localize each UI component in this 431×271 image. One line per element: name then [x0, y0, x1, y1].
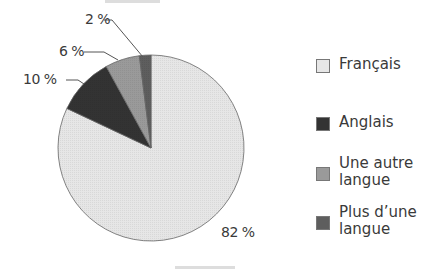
legend-item-une-autre-langue: Une autre langue	[316, 155, 429, 189]
pie-slices	[58, 55, 244, 241]
legend-item-francais: Français	[316, 56, 429, 73]
data-label-une-autre-langue: 6 %	[59, 43, 84, 59]
data-label-plus-dune-langue: 2 %	[85, 11, 110, 27]
leader-line-6	[84, 52, 118, 60]
legend-swatch-icon	[316, 117, 330, 131]
legend-swatch-icon	[316, 167, 330, 181]
legend-item-plus-dune-langue: Plus d’une langue	[316, 204, 429, 238]
legend-label: Français	[339, 56, 429, 73]
leader-line-10	[66, 80, 84, 84]
legend-label: Anglais	[339, 114, 429, 131]
data-label-francais: 82 %	[221, 224, 255, 240]
legend-swatch-icon	[316, 59, 330, 73]
data-label-anglais: 10 %	[23, 71, 57, 87]
legend-label: Une autre langue	[339, 155, 429, 189]
legend-swatch-icon	[316, 216, 330, 230]
legend-label: Plus d’une langue	[339, 204, 429, 238]
legend-item-anglais: Anglais	[316, 114, 429, 131]
